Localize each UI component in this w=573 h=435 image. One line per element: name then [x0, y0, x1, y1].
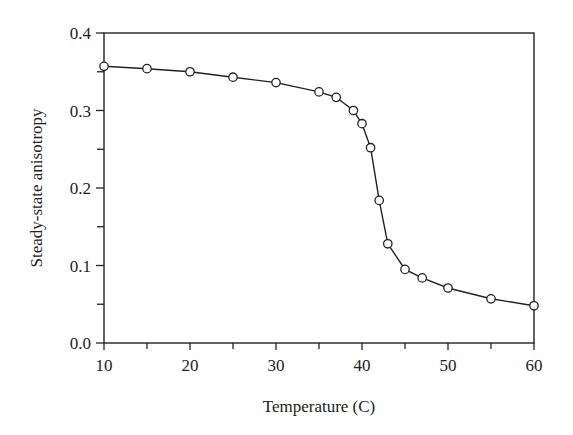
y-tick-label: 0.4: [70, 24, 92, 43]
data-point: [375, 196, 383, 204]
data-point: [444, 284, 452, 292]
x-tick-label: 60: [526, 356, 543, 375]
data-line: [104, 66, 534, 305]
x-axis-title: Temperature (C): [263, 397, 376, 416]
data-point: [401, 265, 409, 273]
data-point: [349, 106, 357, 114]
data-point: [100, 62, 108, 70]
x-tick-label: 50: [440, 356, 457, 375]
y-axis-ticks: [96, 33, 104, 343]
x-axis-ticks: [104, 343, 534, 350]
y-axis-title: Steady-state anisotropy: [27, 108, 46, 268]
data-point: [332, 93, 340, 101]
data-point: [358, 119, 366, 127]
y-tick-label: 0.0: [70, 334, 91, 353]
data-markers: [100, 62, 538, 310]
line-chart: 102030405060 0.00.10.20.30.4 Temperature…: [0, 0, 573, 435]
y-tick-label: 0.3: [70, 102, 91, 121]
x-tick-label: 40: [354, 356, 371, 375]
y-tick-label: 0.1: [70, 257, 91, 276]
y-axis-tick-labels: 0.00.10.20.30.4: [70, 24, 92, 353]
data-point: [366, 144, 374, 152]
data-point: [487, 295, 495, 303]
x-tick-label: 30: [268, 356, 285, 375]
y-tick-label: 0.2: [70, 179, 91, 198]
data-point: [384, 240, 392, 248]
plot-frame: [104, 33, 534, 343]
data-point: [229, 73, 237, 81]
data-point: [418, 274, 426, 282]
data-point: [143, 64, 151, 72]
x-axis-tick-labels: 102030405060: [96, 356, 543, 375]
data-point: [272, 78, 280, 86]
x-tick-label: 20: [182, 356, 199, 375]
data-point: [186, 68, 194, 76]
data-point: [315, 88, 323, 96]
x-tick-label: 10: [96, 356, 113, 375]
data-point: [530, 302, 538, 310]
